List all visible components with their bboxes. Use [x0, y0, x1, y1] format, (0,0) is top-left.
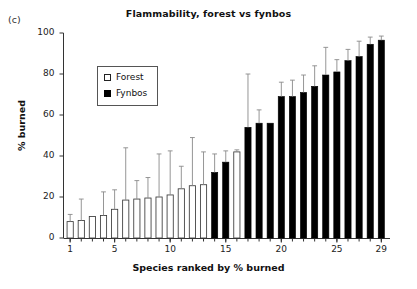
bar-fynbos-25 — [334, 72, 340, 238]
bar-fynbos-21 — [289, 97, 295, 238]
bar-fynbos-17 — [245, 127, 251, 238]
legend-label-fynbos: Fynbos — [116, 88, 147, 98]
bar-fynbos-19 — [267, 123, 273, 238]
bar-forest-2 — [78, 221, 84, 238]
x-tick-label: 10 — [155, 244, 185, 254]
bar-fynbos-18 — [256, 123, 262, 238]
bar-fynbos-22 — [300, 92, 306, 238]
x-tick-label: 25 — [322, 244, 352, 254]
bar-fynbos-20 — [278, 97, 284, 238]
bar-forest-4 — [100, 215, 106, 238]
bar-forest-13 — [200, 185, 206, 238]
bar-forest-12 — [189, 186, 195, 238]
bar-fynbos-27 — [356, 57, 362, 238]
bar-fynbos-23 — [312, 86, 318, 238]
legend-swatch-forest-icon — [104, 74, 111, 81]
legend-item-forest: Forest — [104, 72, 144, 82]
bar-forest-11 — [178, 189, 184, 238]
y-tick-label: 60 — [25, 109, 55, 119]
figure-panel-c: (c) Flammability, forest vs fynbos % bur… — [0, 0, 417, 289]
bar-forest-3 — [89, 216, 95, 238]
bar-forest-16 — [234, 152, 240, 238]
bar-forest-5 — [112, 209, 118, 238]
bar-forest-7 — [134, 199, 140, 238]
bar-fynbos-28 — [367, 44, 373, 238]
bar-fynbos-29 — [378, 40, 384, 238]
legend-swatch-fynbos-icon — [104, 90, 111, 97]
y-tick-label: 80 — [25, 68, 55, 78]
y-tick-label: 20 — [25, 191, 55, 201]
bar-fynbos-24 — [323, 75, 329, 238]
x-tick-label: 20 — [266, 244, 296, 254]
bar-forest-1 — [67, 222, 73, 238]
bar-forest-6 — [123, 200, 129, 238]
chart-legend: Forest Fynbos — [97, 66, 158, 106]
bar-forest-9 — [156, 197, 162, 238]
bar-forest-10 — [167, 195, 173, 238]
y-axis-ticks — [60, 33, 64, 238]
x-tick-label: 15 — [211, 244, 241, 254]
bar-fynbos-15 — [223, 162, 229, 238]
legend-item-fynbos: Fynbos — [104, 88, 147, 98]
bar-fynbos-14 — [212, 172, 218, 238]
x-axis-label: Species ranked by % burned — [0, 262, 417, 273]
x-tick-label: 1 — [55, 244, 85, 254]
x-tick-label: 5 — [100, 244, 130, 254]
x-tick-label: 29 — [366, 244, 396, 254]
y-tick-label: 100 — [25, 27, 55, 37]
y-tick-label: 0 — [25, 232, 55, 242]
legend-label-forest: Forest — [116, 72, 144, 82]
bar-forest-8 — [145, 198, 151, 238]
y-tick-label: 40 — [25, 150, 55, 160]
bar-fynbos-26 — [345, 61, 351, 238]
